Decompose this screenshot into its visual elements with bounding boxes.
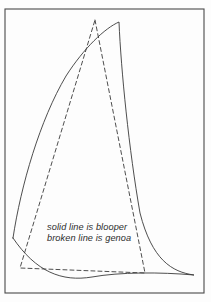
diagram-canvas: solid line is blooper broken line is gen… [0,0,211,302]
caption-line-broken: broken line is genoa [47,233,131,243]
caption-line-solid: solid line is blooper [47,222,128,232]
sail-diagram-figure: solid line is blooper broken line is gen… [0,0,211,302]
figure-background [0,0,211,302]
